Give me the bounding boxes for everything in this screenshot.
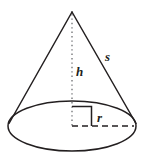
- cone-figure: h s r: [0, 0, 145, 168]
- cone-diagram-svg: h s r: [0, 0, 145, 168]
- height-label: h: [76, 64, 83, 79]
- slant-height-label: s: [104, 49, 110, 64]
- figure-background: [0, 0, 145, 168]
